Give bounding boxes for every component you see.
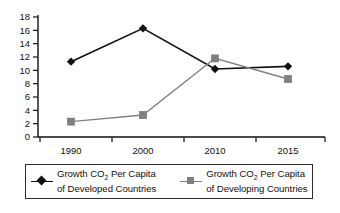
x-tick-label: 2010 (204, 145, 225, 156)
y-tick-label: 2 (25, 118, 30, 129)
data-point-square (67, 118, 75, 126)
data-point-diamond (139, 24, 147, 32)
y-tick-label: 16 (19, 25, 30, 36)
data-point-square (211, 54, 219, 62)
chart-legend: Growth CO2 Per Capita of Developed Count… (25, 164, 313, 199)
x-axis-ticks: 1990200020102015 (40, 137, 325, 156)
data-point-square (139, 111, 147, 119)
y-axis-ticks: 024681012141618 (19, 11, 38, 142)
legend-label-developing: Growth CO2 Per Capita of Developing Coun… (206, 168, 307, 195)
x-tick-label: 1990 (60, 145, 81, 156)
x-tick-label: 2015 (277, 145, 298, 156)
y-tick-label: 18 (19, 11, 30, 22)
y-tick-label: 6 (25, 91, 30, 102)
data-point-diamond (284, 62, 292, 70)
y-tick-label: 14 (19, 38, 30, 49)
legend-label-developed: Growth CO2 Per Capita of Developed Count… (57, 168, 156, 195)
data-point-diamond (211, 65, 219, 73)
y-tick-label: 12 (19, 51, 30, 62)
legend-marker-square-icon (180, 175, 202, 189)
x-tick-label: 2000 (132, 145, 153, 156)
series-layer (67, 24, 292, 125)
legend-item-developed[interactable]: Growth CO2 Per Capita of Developed Count… (26, 165, 178, 198)
y-tick-label: 8 (25, 78, 30, 89)
legend-marker-diamond-icon (31, 175, 53, 189)
legend-item-developing[interactable]: Growth CO2 Per Capita of Developing Coun… (178, 165, 312, 198)
y-tick-label: 0 (25, 131, 30, 142)
y-tick-label: 4 (25, 105, 30, 116)
y-tick-label: 10 (19, 65, 30, 76)
line-chart-figure: 024681012141618 1990200020102015 Growth … (0, 0, 340, 213)
series-line-developed (71, 28, 288, 69)
data-point-diamond (67, 57, 75, 65)
data-point-square (284, 75, 292, 83)
